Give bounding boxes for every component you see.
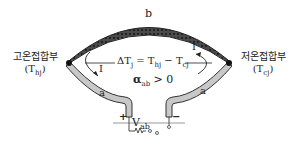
hot-junction-label: 고온접합부 (Thj) <box>6 52 64 77</box>
alpha-condition: αab > 0 <box>133 74 173 88</box>
wire-b-label: b <box>145 8 152 19</box>
voltage-label: Vab <box>132 117 150 131</box>
current-left-label: I <box>99 64 103 74</box>
current-right-label: I <box>192 42 196 52</box>
wire-a-right <box>166 62 232 117</box>
wire-a-right-label: a <box>200 86 206 96</box>
cold-junction-label: 저온접합부 (Tcj) <box>232 52 294 77</box>
hot-junction-dot <box>66 60 72 66</box>
wire-a-left-label: a <box>99 88 105 98</box>
plus-terminal: + <box>119 112 127 122</box>
minus-terminal: − <box>172 112 180 122</box>
delta-t-equation: ΔTj = Thj − Tcj <box>117 56 189 69</box>
current-arrow-right-icon <box>196 54 207 74</box>
